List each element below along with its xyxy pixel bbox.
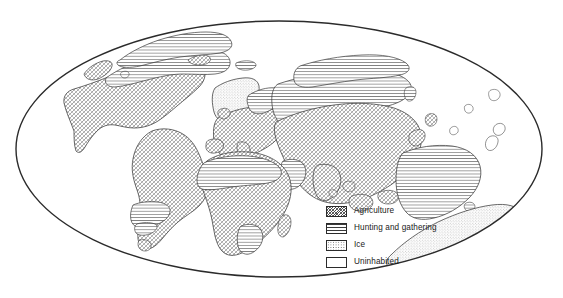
legend-item-hunting: Hunting and gathering [326, 220, 456, 236]
region-small-island-b [450, 126, 459, 134]
legend-item-ice: Ice [326, 237, 456, 253]
legend-item-agriculture: Agriculture [326, 203, 456, 219]
legend-swatch-uninhabited [326, 257, 347, 268]
legend-label-agriculture: Agriculture [354, 206, 394, 216]
world-map-figure: Agriculture Hunting and gathering Ice Un… [0, 0, 563, 298]
region-small-island-e [121, 71, 130, 78]
region-small-island-d [489, 89, 501, 100]
legend-item-uninhabited: Uninhabited [326, 254, 456, 270]
world-map-graphic [0, 0, 563, 298]
region-small-island-c [464, 104, 473, 113]
legend-swatch-ice [326, 240, 347, 251]
legend-label-hunting: Hunting and gathering [354, 223, 437, 233]
region-small-island-a [329, 190, 337, 197]
region-arctic-island-b [236, 61, 256, 70]
map-legend: Agriculture Hunting and gathering Ice Un… [326, 203, 456, 271]
legend-swatch-hunting [326, 223, 347, 234]
legend-label-ice: Ice [354, 240, 365, 250]
legend-swatch-agriculture [326, 206, 347, 217]
legend-label-uninhabited: Uninhabited [354, 257, 399, 267]
